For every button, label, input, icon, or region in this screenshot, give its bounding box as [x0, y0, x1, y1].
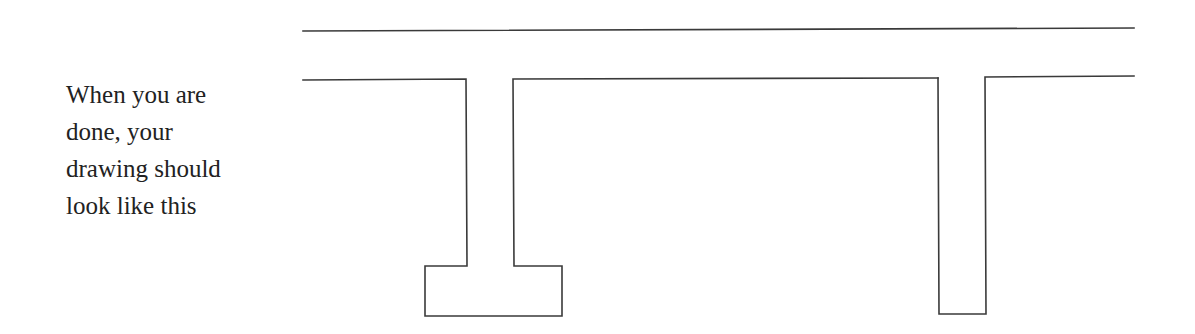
slab-with-left-footing-outline	[303, 78, 938, 316]
right-stem-outline	[938, 76, 1134, 314]
top-flange-line	[303, 28, 1134, 31]
cross-section-drawing	[0, 0, 1195, 334]
